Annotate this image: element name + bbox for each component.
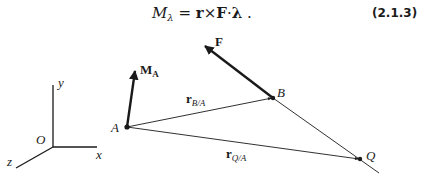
line-of-action [273, 98, 379, 173]
point-B [271, 96, 275, 100]
y-axis-label: y [58, 76, 64, 89]
point-B-label: B [277, 86, 285, 99]
r-BA-subscript: B/A [192, 98, 206, 108]
point-A [124, 124, 129, 129]
r-BA-label: rB/A [186, 92, 205, 108]
r-QA-label: rQ/A [226, 147, 246, 163]
point-Q [358, 157, 362, 161]
figure: Mλ = r×F·λ . (2.1.3) [0, 0, 425, 177]
point-Q-label: Q [366, 149, 375, 162]
x-axis-label: x [96, 148, 102, 161]
force-vector [205, 46, 273, 98]
moment-label: MA [140, 63, 159, 79]
r-QA-subscript: Q/A [232, 153, 247, 163]
moment-symbol: M [140, 62, 152, 77]
z-axis-label: z [7, 155, 12, 168]
coordinate-axes [16, 85, 97, 168]
force-label: F [215, 35, 223, 48]
moment-vector [127, 71, 135, 127]
origin-label: O [36, 133, 45, 146]
moment-subscript: A [152, 69, 159, 79]
z-axis [16, 147, 53, 168]
point-A-label: A [111, 121, 119, 134]
